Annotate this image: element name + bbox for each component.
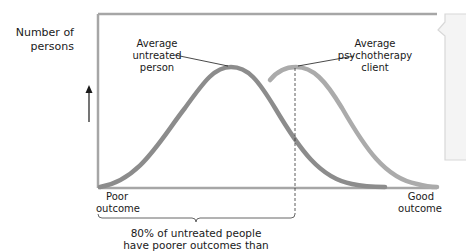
label-line: person xyxy=(122,62,192,74)
label-line: outcome xyxy=(394,203,442,215)
effect-size-diagram: Number of persons Average untreated pers… xyxy=(0,0,466,251)
y-axis-label-line: persons xyxy=(14,40,74,54)
label-line: Average xyxy=(122,38,192,50)
label-line: untreated xyxy=(122,50,192,62)
psychotherapy-client-label: Average psychotherapy client xyxy=(335,38,415,74)
percentile-bracket xyxy=(98,214,295,222)
bracket-caption: 80% of untreated people have poorer outc… xyxy=(116,227,276,251)
untreated-person-label: Average untreated person xyxy=(122,38,192,74)
good-outcome-label: Good outcome xyxy=(394,191,442,215)
label-line: Good xyxy=(394,191,442,203)
label-line: Poor xyxy=(96,191,144,203)
label-line: psychotherapy xyxy=(335,50,415,62)
caption-line: 80% of untreated people xyxy=(116,227,276,239)
caption-line: have poorer outcomes than xyxy=(116,239,276,251)
up-arrow-icon xyxy=(86,85,93,122)
y-axis-label-line: Number of xyxy=(14,26,74,40)
label-line: outcome xyxy=(96,203,144,215)
y-axis-label: Number of persons xyxy=(14,26,74,54)
untreated-distribution-curve xyxy=(100,67,385,187)
side-callout-shape xyxy=(438,14,466,160)
poor-outcome-label: Poor outcome xyxy=(96,191,144,215)
label-line: Average xyxy=(335,38,415,50)
label-line: client xyxy=(335,62,415,74)
